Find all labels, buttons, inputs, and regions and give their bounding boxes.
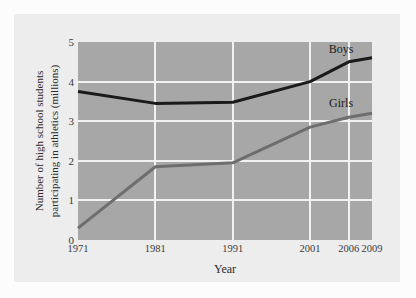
x-tick-label: 1971 [68, 244, 89, 255]
chart-figure: 012345 197119811991200120062009 Year Num… [0, 0, 416, 298]
x-tick-label: 1981 [145, 244, 166, 255]
x-tick-label: 2006 [338, 244, 359, 255]
x-axis-title: Year [78, 262, 372, 277]
series-lines [78, 42, 372, 240]
y-axis-title: Number of high school students participa… [32, 42, 68, 240]
series-label-girls: Girls [329, 97, 353, 109]
series-label-boys: Boys [329, 43, 354, 55]
x-tick-label: 1991 [222, 244, 243, 255]
y-axis-title-line-1: Number of high school students [32, 42, 47, 240]
series-line-girls [78, 113, 372, 228]
x-axis-ticks: 197119811991200120062009 [78, 244, 372, 260]
plot-area [78, 42, 372, 240]
x-tick-label: 2001 [300, 244, 321, 255]
y-axis-title-line-2: participating in athletics (millions) [47, 42, 62, 240]
series-line-boys [78, 58, 372, 104]
x-tick-label: 2009 [362, 244, 383, 255]
